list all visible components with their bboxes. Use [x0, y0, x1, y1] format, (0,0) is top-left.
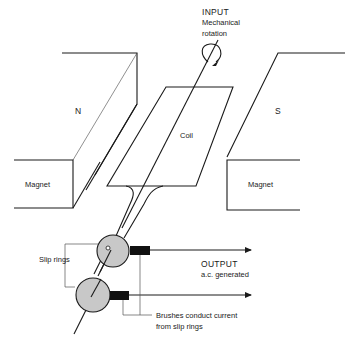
input-title: INPUT	[202, 7, 229, 17]
brushes-line1: Brushes conduct current	[156, 311, 237, 321]
rotation-arrow-icon	[202, 44, 221, 66]
slip-rings-label: Slip rings	[39, 255, 70, 265]
south-pole-label: S	[275, 106, 281, 116]
brush-upper	[130, 246, 150, 255]
shaft-upper	[122, 40, 218, 228]
slip-ring-upper	[97, 235, 129, 267]
coil	[107, 87, 233, 238]
magnet-left-label: Magnet	[25, 180, 50, 190]
slip-ring-lower	[76, 278, 110, 312]
brush-lower	[110, 291, 129, 300]
brushes-line2: from slip rings	[156, 322, 203, 332]
input-line2: rotation	[202, 29, 227, 39]
coil-label: Coil	[180, 131, 193, 141]
output-sub: a.c. generated	[201, 270, 249, 280]
north-pole-label: N	[75, 106, 81, 116]
output-title: OUTPUT	[201, 259, 238, 269]
left-magnet-edge	[86, 104, 137, 190]
generator-diagram	[0, 0, 358, 348]
magnet-right-label: Magnet	[248, 180, 273, 190]
brush-leader-lower	[123, 300, 152, 315]
input-line1: Mechanical	[202, 18, 240, 28]
right-magnet	[227, 53, 345, 210]
